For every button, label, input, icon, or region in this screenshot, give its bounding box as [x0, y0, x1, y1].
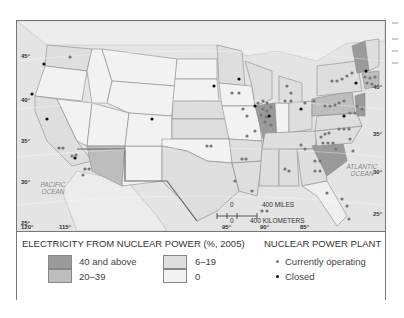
nebraska: [172, 101, 227, 119]
scale-km: 400 KILOMETERS: [250, 217, 305, 224]
swatch-6-19: [163, 255, 187, 269]
scale-miles-zero: 0: [230, 201, 234, 208]
lat-tick: 40°: [21, 97, 30, 103]
swatch-40-above: [48, 255, 72, 269]
swatch-20-39: [48, 269, 72, 283]
page-edge-mark: [392, 22, 398, 24]
lon-tick: 95°: [222, 224, 231, 230]
kansas: [172, 119, 229, 139]
tennessee: [262, 131, 317, 149]
swatch-label: 0: [195, 271, 200, 282]
pacific-ocean-label: PACIFIC OCEAN: [33, 181, 73, 195]
swatch-label: 40 and above: [79, 256, 137, 267]
alabama: [279, 149, 299, 186]
scale-km-zero: 0: [230, 217, 234, 224]
lon-tick: 115°: [59, 224, 71, 230]
swatch-label: 6–19: [195, 256, 216, 267]
us-nuclear-map: [17, 21, 385, 231]
new-york: [317, 61, 362, 96]
plant-label: Closed: [285, 271, 315, 282]
page-edge-mark: [392, 50, 398, 52]
scale-miles: 400 MILES: [262, 201, 294, 208]
lat-tick-right: 25°: [373, 211, 382, 217]
share-legend-title: ELECTRICITY FROM NUCLEAR POWER (%, 2005): [22, 238, 245, 249]
operating-dot-icon: [276, 260, 279, 263]
lat-tick-right: 40°: [373, 84, 382, 90]
plant-label: Currently operating: [285, 256, 366, 267]
lat-tick: 35°: [21, 138, 30, 144]
map-figure: 45° 40° 35° 30° 25° 40° 35° 30° 25° 120°…: [16, 20, 386, 300]
swatch-label: 20–39: [79, 271, 105, 282]
lat-tick: 45°: [21, 53, 30, 59]
lat-tick-right: 35°: [373, 131, 382, 137]
swatch-0: [163, 269, 187, 283]
lon-tick: 90°: [260, 224, 269, 230]
lat-tick: 30°: [21, 179, 30, 185]
closed-dot-icon: [276, 275, 279, 278]
lon-tick: 120°: [21, 224, 33, 230]
lon-tick: 85°: [300, 224, 309, 230]
ohio: [289, 101, 312, 133]
page-edge-mark: [392, 38, 398, 40]
page-edge-mark: [392, 62, 398, 64]
atlantic-ocean-label: ATLANTIC OCEAN: [342, 163, 382, 177]
legend: ELECTRICITY FROM NUCLEAR POWER (%, 2005)…: [17, 231, 385, 300]
plant-legend-title: NUCLEAR POWER PLANT: [264, 238, 381, 249]
